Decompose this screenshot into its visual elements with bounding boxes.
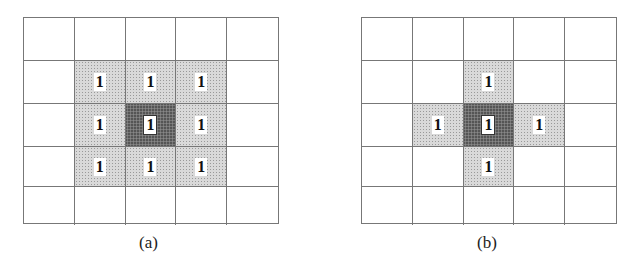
grid-cell bbox=[176, 18, 227, 61]
cell-value: 1 bbox=[144, 158, 156, 176]
neighbor-cell: 1 bbox=[75, 104, 126, 147]
grid-cell bbox=[514, 187, 565, 225]
grid-cell bbox=[565, 61, 616, 104]
cell-value: 1 bbox=[94, 116, 106, 134]
grid-cell bbox=[362, 187, 413, 225]
cell-value: 1 bbox=[482, 73, 494, 91]
neighbor-cell: 1 bbox=[176, 147, 227, 187]
grid-cell bbox=[24, 18, 75, 61]
cell-value: 1 bbox=[94, 73, 106, 91]
grid-cell bbox=[413, 187, 464, 225]
grid-cell bbox=[514, 147, 565, 187]
cell-value: 1 bbox=[195, 73, 207, 91]
cell-value: 1 bbox=[195, 116, 207, 134]
kernel-grid-b: 11111 bbox=[361, 17, 617, 224]
grid-cell bbox=[75, 18, 126, 61]
grid-cell bbox=[24, 147, 75, 187]
cell-value: 1 bbox=[195, 158, 207, 176]
grid-cell bbox=[24, 187, 75, 225]
cell-value: 1 bbox=[144, 73, 156, 91]
caption-a: (a) bbox=[139, 233, 158, 253]
grid-cell bbox=[565, 187, 616, 225]
neighbor-cell: 1 bbox=[176, 61, 227, 104]
kernel-grid-a: 111111111 bbox=[23, 17, 279, 224]
grid-cell bbox=[24, 61, 75, 104]
neighbor-cell: 1 bbox=[464, 61, 515, 104]
grid-cell bbox=[362, 61, 413, 104]
neighbor-cell: 1 bbox=[126, 147, 177, 187]
grid-cell bbox=[24, 104, 75, 147]
grid-cell bbox=[227, 104, 278, 147]
cell-value: 1 bbox=[432, 116, 444, 134]
grid-cell bbox=[565, 104, 616, 147]
grid-cell bbox=[126, 18, 177, 61]
grid-cell bbox=[413, 61, 464, 104]
grid-cell bbox=[514, 18, 565, 61]
cell-value: 1 bbox=[143, 115, 157, 135]
center-cell: 1 bbox=[126, 104, 177, 147]
neighbor-cell: 1 bbox=[413, 104, 464, 147]
grid-cell bbox=[565, 18, 616, 61]
grid-cell bbox=[413, 147, 464, 187]
cell-value: 1 bbox=[533, 116, 545, 134]
grid-cell bbox=[362, 104, 413, 147]
grid-cell bbox=[227, 187, 278, 225]
grid-cell bbox=[126, 187, 177, 225]
caption-b: (b) bbox=[477, 233, 497, 253]
grid-cell bbox=[227, 61, 278, 104]
neighbor-cell: 1 bbox=[126, 61, 177, 104]
grid-cell bbox=[464, 187, 515, 225]
cell-value: 1 bbox=[481, 115, 495, 135]
neighbor-cell: 1 bbox=[75, 147, 126, 187]
neighbor-cell: 1 bbox=[176, 104, 227, 147]
grid-cell bbox=[362, 147, 413, 187]
grid-cell bbox=[464, 18, 515, 61]
grid-cell bbox=[565, 147, 616, 187]
neighbor-cell: 1 bbox=[464, 147, 515, 187]
grid-cell bbox=[75, 187, 126, 225]
grid-cell bbox=[227, 147, 278, 187]
grid-cell bbox=[176, 187, 227, 225]
neighbor-cell: 1 bbox=[75, 61, 126, 104]
grid-cell bbox=[413, 18, 464, 61]
cell-value: 1 bbox=[94, 158, 106, 176]
grid-cell bbox=[514, 61, 565, 104]
center-cell: 1 bbox=[464, 104, 515, 147]
grid-cell bbox=[227, 18, 278, 61]
cell-value: 1 bbox=[482, 158, 494, 176]
grid-cell bbox=[362, 18, 413, 61]
neighbor-cell: 1 bbox=[514, 104, 565, 147]
